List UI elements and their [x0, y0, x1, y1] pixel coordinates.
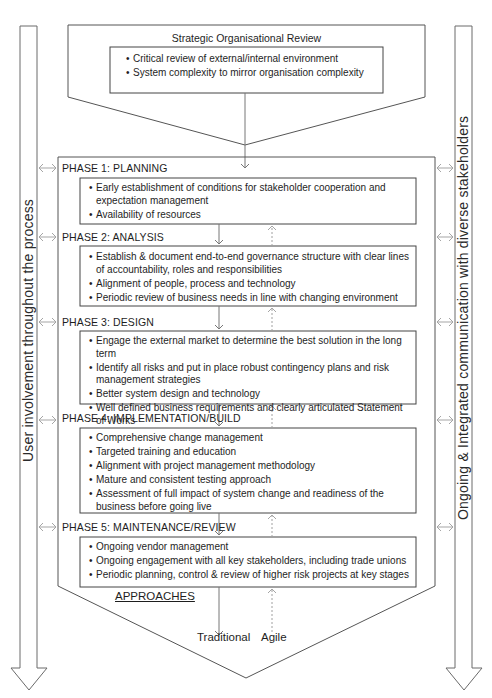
phase-5-label: PHASE 5: MAINTENANCE/REVIEW — [62, 521, 236, 533]
review-title: Strategic Organisational Review — [110, 32, 383, 44]
right-band-label: Ongoing & Integrated communication with … — [455, 116, 471, 520]
phase-3-label: PHASE 3: DESIGN — [62, 316, 154, 328]
phase-1-box: Early establishment of conditions for st… — [87, 182, 413, 223]
phase-4-label: PHASE 4: IMPLEMENTATION/BUILD — [62, 412, 241, 424]
phase-5-box: Ongoing vendor management Ongoing engage… — [87, 541, 413, 583]
review-box: Critical review of external/internal env… — [124, 53, 383, 81]
approaches-heading: APPROACHES — [115, 590, 195, 602]
phase-item: Targeted training and education — [87, 446, 413, 459]
phase-item: Mature and consistent testing approach — [87, 474, 413, 487]
phase-item: Alignment with project management method… — [87, 460, 413, 473]
phase-2-label: PHASE 2: ANALYSIS — [62, 231, 164, 243]
phase-item: Better system design and technology — [87, 388, 413, 401]
phase-item: Identify all risks and put in place robu… — [87, 362, 413, 387]
review-item: System complexity to mirror organisation… — [124, 67, 383, 80]
phase-item: Alignment of people, process and technol… — [87, 278, 413, 291]
phase-item: Assessment of full impact of system chan… — [87, 488, 413, 513]
phase-4-box: Comprehensive change management Targeted… — [87, 432, 413, 515]
phase-item: Engage the external market to determine … — [87, 335, 413, 360]
agile-label: Agile — [261, 631, 287, 643]
phase-item: Early establishment of conditions for st… — [87, 182, 413, 207]
phase-item: Comprehensive change management — [87, 432, 413, 445]
phase-2-box: Establish & document end-to-end governan… — [87, 251, 413, 306]
review-item: Critical review of external/internal env… — [124, 53, 383, 66]
phase-item: Periodic review of business needs in lin… — [87, 292, 413, 305]
phase-item: Periodic planning, control & review of h… — [87, 569, 413, 582]
traditional-label: Traditional — [197, 631, 250, 643]
phase-item: Ongoing engagement with all key stakehol… — [87, 555, 413, 568]
phase-1-label: PHASE 1: PLANNING — [62, 162, 168, 174]
phase-item: Establish & document end-to-end governan… — [87, 251, 413, 276]
phase-item: Availability of resources — [87, 209, 413, 222]
phase-item: Ongoing vendor management — [87, 541, 413, 554]
left-band-label: User involvement throughout the process — [20, 199, 36, 462]
